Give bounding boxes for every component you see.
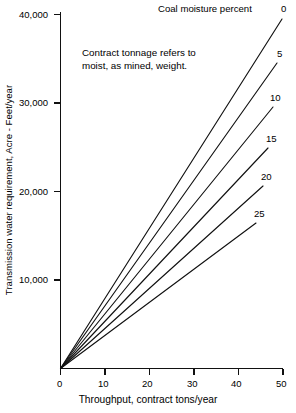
series-label-25: 25 (254, 208, 265, 219)
y-tick-label-30000: 30,000 (19, 98, 48, 108)
y-tick-label-20000: 20,000 (19, 187, 48, 197)
y-tick-label-10000: 10,000 (19, 275, 48, 285)
x-tick-label-0: 0 (57, 379, 62, 389)
series-line-20 (61, 186, 264, 369)
series-label-15: 15 (266, 133, 277, 144)
plot-annotation-line-2: moist, as mined, weight. (82, 59, 196, 72)
y-axis-title: Transmission water requirement, Acre - F… (3, 84, 14, 295)
chart-figure: Transmission water requirement, Acre - F… (0, 0, 296, 413)
series-line-5 (61, 63, 278, 369)
series-label-20: 20 (261, 171, 272, 182)
legend-title: Coal moisture percent (158, 3, 252, 14)
plot-annotation-line-1: Contract tonnage refers to (82, 46, 196, 59)
x-axis-title: Throughput, contract tons/year (0, 394, 296, 405)
x-tick-label-30: 30 (187, 379, 198, 389)
x-tick-label-50: 50 (276, 379, 287, 389)
series-line-10 (61, 107, 274, 369)
x-tick-label-20: 20 (142, 379, 153, 389)
series-label-10: 10 (270, 92, 281, 103)
series-line-25 (61, 223, 257, 369)
x-tick-label-40: 40 (231, 379, 242, 389)
series-label-5: 5 (277, 48, 282, 59)
series-label-0: 0 (281, 3, 286, 14)
y-tick-label-40000: 40,000 (19, 10, 48, 20)
plot-annotation: Contract tonnage refers to moist, as min… (82, 46, 196, 72)
series-line-15 (61, 148, 269, 369)
x-tick-label-10: 10 (98, 379, 109, 389)
